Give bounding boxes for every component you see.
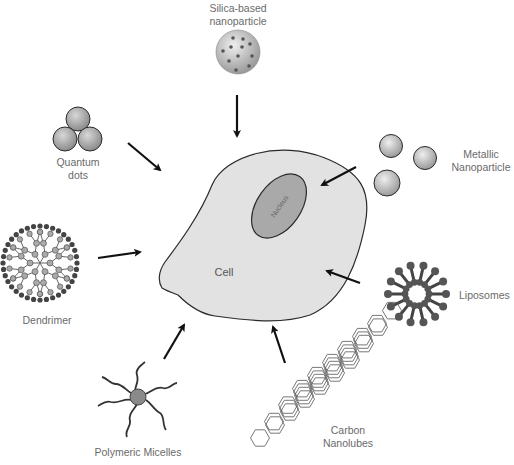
label-carbon-line1: Carbon: [318, 424, 378, 437]
label-dendrimer: Dendrimer: [12, 314, 82, 327]
label-silica-line2: nanoparticle: [198, 15, 278, 28]
label-liposomes: Liposomes: [459, 289, 510, 302]
dendrimer-icon: [0, 223, 79, 302]
label-quantum-line2: dots: [48, 169, 108, 182]
label-silica: Silica-based nanoparticle: [198, 2, 278, 28]
arrow-dendrimer: [98, 252, 140, 258]
metallic-nanoparticle-icon: [374, 135, 437, 197]
label-micelles-line1: Polymeric Micelles: [88, 446, 188, 459]
label-quantum-line1: Quantum: [48, 156, 108, 169]
label-liposomes-line1: Liposomes: [459, 289, 510, 302]
silica-nanoparticle-icon: [216, 30, 260, 74]
label-dendrimer-line1: Dendrimer: [12, 314, 82, 327]
arrow-quantum: [128, 143, 160, 170]
polymeric-micelles-icon: [98, 362, 177, 437]
label-polymeric-micelles: Polymeric Micelles: [88, 446, 188, 459]
liposomes-icon: [384, 262, 450, 327]
label-metallic-line2: Nanoparticle: [448, 161, 514, 174]
cell: Nucleus Cell: [159, 150, 367, 321]
cell-label: Cell: [215, 266, 234, 278]
label-carbon-line2: Nanolubes: [318, 437, 378, 450]
label-metallic: Metallic Nanoparticle: [448, 148, 514, 174]
label-silica-line1: Silica-based: [198, 2, 278, 15]
label-quantum-dots: Quantum dots: [48, 156, 108, 182]
label-metallic-line1: Metallic: [448, 148, 514, 161]
arrow-carbon: [273, 327, 285, 363]
nanocarrier-diagram: Nucleus Cell: [0, 0, 514, 465]
arrow-micelles: [164, 325, 184, 359]
quantum-dots-icon: [53, 107, 102, 151]
label-carbon: Carbon Nanolubes: [318, 424, 378, 450]
